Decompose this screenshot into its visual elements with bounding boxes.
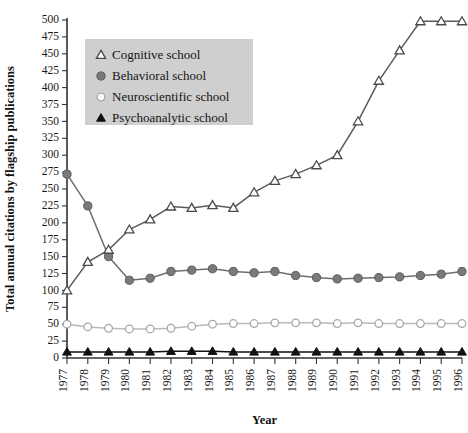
- marker-filled-circle: [229, 267, 237, 275]
- x-axis-tick-label: 1982: [161, 369, 173, 392]
- x-axis-tick-label: 1981: [140, 369, 152, 392]
- legend: Cognitive schoolBehavioral schoolNeurosc…: [85, 39, 253, 125]
- marker-open-circle: [63, 320, 71, 328]
- x-axis-tick-label: 1995: [431, 369, 443, 392]
- marker-open-circle: [209, 320, 217, 328]
- x-axis-tick-label: 1994: [410, 369, 422, 392]
- x-axis-tick-label: 1977: [57, 369, 69, 392]
- marker-filled-circle: [97, 72, 105, 80]
- y-axis-tick-label: 325: [42, 131, 60, 143]
- marker-filled-circle: [84, 202, 92, 210]
- marker-open-circle: [230, 320, 238, 328]
- y-axis-tick-label: 450: [42, 47, 60, 59]
- marker-open-triangle: [83, 257, 92, 265]
- marker-open-circle: [396, 320, 404, 328]
- marker-filled-circle: [146, 274, 154, 282]
- legend-item[interactable]: Neuroscientific school: [97, 89, 230, 104]
- marker-filled-circle: [416, 271, 424, 279]
- x-axis-tick-label: 1991: [348, 369, 360, 392]
- x-axis-tick-label: 1980: [119, 369, 131, 392]
- marker-open-circle: [126, 325, 134, 333]
- y-axis-tick-label: 125: [42, 267, 60, 279]
- marker-filled-circle: [188, 266, 196, 274]
- marker-filled-circle: [292, 271, 300, 279]
- marker-filled-circle: [208, 265, 216, 273]
- line-chart: 0255075100125150175200225250275300325350…: [0, 0, 468, 433]
- x-axis-tick-label: 1979: [99, 369, 111, 392]
- marker-filled-circle: [167, 267, 175, 275]
- x-axis-tick-label: 1985: [223, 369, 235, 392]
- series-neuroscientific-school: [63, 319, 466, 333]
- chart-container: 0255075100125150175200225250275300325350…: [0, 0, 468, 433]
- x-axis-tick-label: 1988: [286, 369, 298, 392]
- x-axis-tick-label: 1993: [390, 369, 402, 392]
- series-path: [67, 351, 462, 352]
- marker-open-triangle: [250, 188, 259, 196]
- marker-filled-circle: [125, 276, 133, 284]
- marker-filled-circle: [458, 267, 466, 275]
- marker-filled-circle: [63, 170, 71, 178]
- marker-filled-circle: [333, 275, 341, 283]
- marker-open-circle: [333, 320, 341, 328]
- marker-open-triangle: [353, 117, 362, 125]
- marker-open-circle: [292, 319, 300, 327]
- y-axis-tick-label: 250: [42, 182, 60, 194]
- y-axis-tick-label: 275: [42, 165, 60, 177]
- y-axis-tick-label: 300: [42, 148, 60, 160]
- y-axis-tick-label: 0: [53, 351, 59, 363]
- legend-item-label: Cognitive school: [112, 47, 201, 62]
- marker-filled-circle: [354, 274, 362, 282]
- marker-open-circle: [84, 323, 92, 331]
- marker-open-circle: [417, 320, 425, 328]
- y-axis-tick-label: 475: [42, 30, 60, 42]
- x-axis-tick-label: 1978: [78, 369, 90, 392]
- legend-item[interactable]: Cognitive school: [96, 47, 200, 62]
- marker-filled-circle: [271, 267, 279, 275]
- marker-open-circle: [167, 324, 175, 332]
- y-axis-tick-label: 400: [42, 81, 60, 93]
- y-axis-tick-label: 500: [42, 13, 60, 25]
- legend-item[interactable]: Psychoanalytic school: [97, 110, 229, 125]
- legend-item-label: Neuroscientific school: [112, 89, 230, 104]
- y-axis-tick-label: 75: [48, 300, 60, 312]
- marker-open-triangle: [208, 201, 217, 209]
- legend-item-label: Behavioral school: [112, 68, 207, 83]
- marker-open-circle: [458, 320, 466, 328]
- marker-filled-circle: [312, 273, 320, 281]
- marker-open-circle: [437, 320, 445, 328]
- x-axis-title: Year: [252, 413, 277, 427]
- marker-open-circle: [354, 319, 362, 327]
- marker-open-circle: [97, 93, 105, 101]
- marker-open-triangle: [125, 225, 134, 233]
- y-axis-tick-label: 375: [42, 98, 60, 110]
- y-axis-tick-label: 150: [42, 250, 60, 262]
- x-axis-tick-label: 1989: [306, 369, 318, 392]
- marker-open-circle: [313, 319, 321, 327]
- marker-open-circle: [188, 322, 196, 330]
- marker-open-circle: [375, 320, 383, 328]
- x-axis-tick-label: 1996: [452, 369, 464, 392]
- y-axis-tick-label: 200: [42, 216, 60, 228]
- marker-filled-circle: [250, 269, 258, 277]
- series-path: [67, 174, 462, 280]
- marker-open-triangle: [312, 161, 321, 169]
- x-axis-tick-label: 1983: [182, 369, 194, 392]
- marker-open-circle: [250, 320, 258, 328]
- x-axis-tick-label: 1987: [265, 369, 277, 392]
- marker-open-triangle: [166, 202, 175, 210]
- x-axis-tick-label: 1984: [203, 369, 215, 392]
- y-axis-tick-label: 175: [42, 233, 60, 245]
- y-axis-tick-label: 350: [42, 115, 60, 127]
- x-axis-tick-label: 1990: [327, 369, 339, 392]
- x-axis-tick-label: 1992: [369, 369, 381, 392]
- y-axis-tick-label: 50: [48, 317, 60, 329]
- y-axis-title: Total annual citations by flagship publi…: [3, 66, 17, 312]
- marker-open-triangle: [146, 215, 155, 223]
- x-axis-tick-label: 1986: [244, 369, 256, 392]
- marker-open-circle: [146, 325, 154, 333]
- y-axis-tick-label: 225: [42, 199, 60, 211]
- marker-filled-circle: [437, 270, 445, 278]
- legend-item[interactable]: Behavioral school: [97, 68, 207, 83]
- y-axis-tick-label: 100: [42, 284, 60, 296]
- marker-filled-circle: [396, 273, 404, 281]
